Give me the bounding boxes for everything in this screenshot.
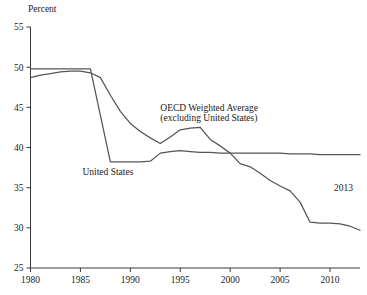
y-tick-label: 45 bbox=[14, 103, 24, 113]
y-tick-label: 40 bbox=[14, 143, 24, 153]
x-tick-label: 1980 bbox=[21, 275, 40, 285]
x-tick-label: 2000 bbox=[221, 275, 240, 285]
x-tick-label: 2010 bbox=[321, 275, 340, 285]
chart-container: 2530354045505519801985199019952000200520… bbox=[0, 0, 367, 295]
y-axis-title: Percent bbox=[28, 4, 57, 14]
data-series bbox=[31, 69, 361, 230]
y-tick-label: 55 bbox=[14, 22, 24, 32]
y-tick-label: 30 bbox=[14, 223, 24, 233]
y-tick-label: 25 bbox=[14, 263, 24, 273]
line-chart: 2530354045505519801985199019952000200520… bbox=[0, 0, 367, 295]
chart-annotations: OECD Weighted Average(excluding United S… bbox=[82, 103, 353, 193]
x-tick-label: 2005 bbox=[271, 275, 290, 285]
y-tick-label: 50 bbox=[14, 63, 24, 73]
x-tick-label: 1990 bbox=[121, 275, 140, 285]
x-tick-label: 1995 bbox=[171, 275, 190, 285]
oecd-label: OECD Weighted Average bbox=[160, 103, 258, 113]
us-label: United States bbox=[82, 167, 133, 177]
y-tick-label: 35 bbox=[14, 183, 24, 193]
x-tick-label: 1985 bbox=[71, 275, 90, 285]
series-line-oecd-weighted-average bbox=[31, 71, 361, 230]
oecd-label-line2: (excluding United States) bbox=[160, 113, 257, 124]
year-label: 2013 bbox=[334, 183, 353, 193]
